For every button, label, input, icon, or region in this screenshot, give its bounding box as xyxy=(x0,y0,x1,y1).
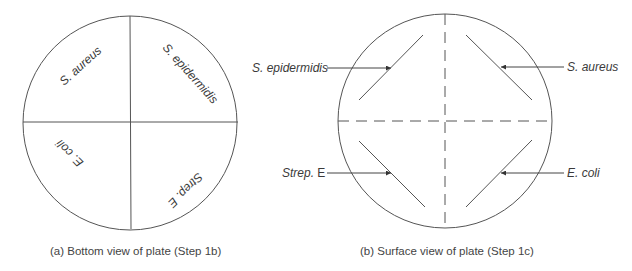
label-s-aureus: S. aureus xyxy=(567,60,618,74)
label-strep-e-group: E xyxy=(314,166,325,180)
quadrant-label-e-coli: E. coli xyxy=(53,137,86,170)
caption-a: (a) Bottom view of plate (Step 1b) xyxy=(50,245,221,257)
quadrant-label-s-aureus: S. aureus xyxy=(57,43,105,88)
panel-a-bottom-view: S. aureus S. epidermidis E. coli Strep. … xyxy=(23,16,238,257)
streak-strep-e xyxy=(359,141,425,207)
quadrant-label-s-epidermidis: S. epidermidis xyxy=(160,41,221,107)
label-strep-e-genus: Strep. xyxy=(282,166,314,180)
quadrant-label-strep-e: Strep. E xyxy=(165,170,206,211)
label-s-epidermidis: S. epidermidis xyxy=(252,61,328,75)
caption-b: (b) Surface view of plate (Step 1c) xyxy=(360,245,534,257)
panel-b-surface-view: S. epidermidis S. aureus Strep. E E. col… xyxy=(252,14,618,257)
label-strep-e: Strep. E xyxy=(282,166,325,180)
label-e-coli: E. coli xyxy=(567,166,600,180)
plate-diagram: S. aureus S. epidermidis E. coli Strep. … xyxy=(0,0,632,271)
